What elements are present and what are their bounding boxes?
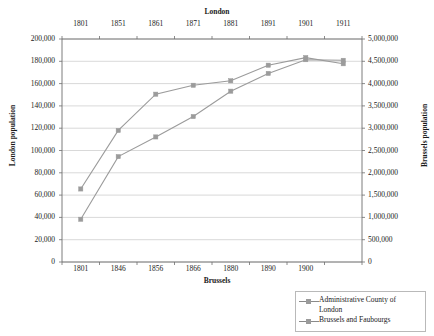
- plot-area: [0, 0, 434, 336]
- series-line-brussels: [81, 58, 344, 189]
- legend-item-administrative-county-of-london: Administrative County of London: [299, 295, 422, 314]
- legend-label: Administrative County of London: [319, 295, 396, 314]
- data-point-marker: [266, 71, 270, 75]
- legend-label: Brussels and Faubourgs: [319, 315, 391, 325]
- legend-label-line1: Brussels and Faubourgs: [319, 315, 391, 324]
- data-point-marker: [79, 217, 83, 221]
- data-point-marker: [266, 63, 270, 67]
- data-point-marker: [191, 83, 195, 87]
- data-point-marker: [229, 79, 233, 83]
- data-point-marker: [79, 187, 83, 191]
- legend-item-brussels-and-faubourgs: Brussels and Faubourgs: [299, 315, 422, 326]
- data-point-marker: [229, 89, 233, 93]
- legend-key-line-marker-icon: [299, 297, 319, 306]
- data-point-marker: [116, 155, 120, 159]
- data-point-marker: [116, 128, 120, 132]
- legend-label-line2: London: [319, 305, 342, 314]
- data-point-marker: [304, 56, 308, 60]
- legend-label-line1: Administrative County of: [319, 295, 396, 304]
- chart-legend: Administrative County of London Brussels…: [295, 291, 426, 332]
- population-line-chart: London Brussels London population Brusse…: [0, 0, 434, 336]
- data-point-marker: [154, 135, 158, 139]
- legend-key-line-marker-icon: [299, 317, 319, 326]
- data-point-marker: [191, 114, 195, 118]
- data-point-marker: [154, 92, 158, 96]
- data-point-marker: [341, 62, 345, 66]
